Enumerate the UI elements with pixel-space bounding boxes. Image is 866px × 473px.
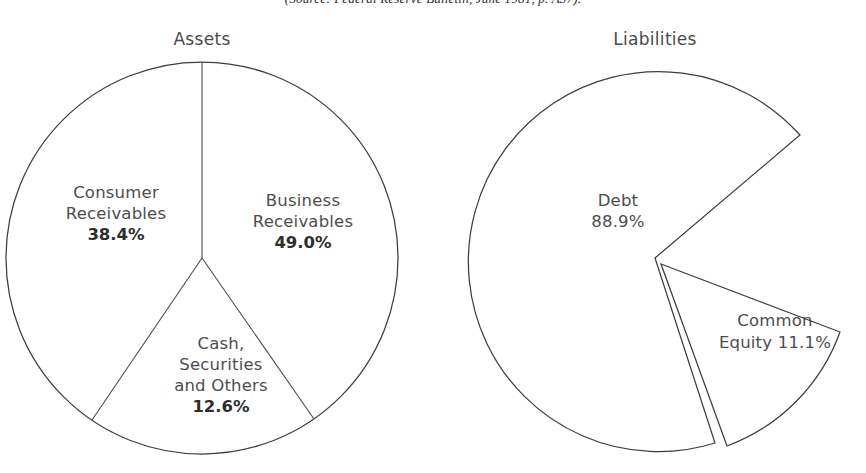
slice-name-line1: Consumer [36,182,196,203]
slice-label-cash-securities-others: Cash, Securities and Others 12.6% [146,333,296,417]
slice-percent-consumer: 38.4% [36,224,196,245]
slice-percent-business: 49.0% [228,232,378,253]
slice-label-debt: Debt 88.9% [548,190,688,232]
slice-name-line2: Securities [146,354,296,375]
slice-percent-equity: 11.1% [778,333,831,352]
liabilities-debt-slice [468,72,800,452]
slice-name-line1: Cash, [146,333,296,354]
slice-percent-debt: 88.9% [548,211,688,232]
figure-canvas: (Source: Federal Reserve Bulletin, June … [0,0,866,473]
slice-name-line2: Receivables [36,203,196,224]
slice-label-common-equity: Common Equity 11.1% [700,310,850,354]
slice-name-line2: Receivables [228,211,378,232]
slice-percent-cash: 12.6% [146,396,296,417]
slice-label-consumer-receivables: Consumer Receivables 38.4% [36,182,196,245]
slice-label-business-receivables: Business Receivables 49.0% [228,190,378,253]
pie-liabilities [468,72,840,452]
slice-name-line2: Equity [719,333,772,352]
slice-name-line1: Debt [548,190,688,211]
liabilities-equity-slice [661,264,840,446]
slice-name-line3: and Others [146,375,296,396]
slice-name-line1: Business [228,190,378,211]
slice-name-line1: Common [700,310,850,332]
